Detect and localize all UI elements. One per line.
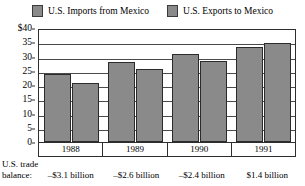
bar-group — [103, 30, 167, 142]
trade-balance-value: –$2.4 billion — [169, 170, 235, 182]
bar-imports — [172, 54, 199, 142]
bar-groups — [39, 30, 295, 142]
trade-balance-caption-line2: balance: — [2, 170, 42, 181]
bar-imports — [236, 47, 263, 142]
legend-swatch-exports — [167, 5, 178, 17]
y-tick-mark — [32, 71, 35, 72]
bar-group — [231, 30, 295, 142]
plot-area — [38, 29, 296, 143]
trade-balance-value: $1.4 billion — [235, 170, 301, 182]
bar-imports — [108, 62, 135, 142]
bar-exports — [264, 43, 291, 142]
y-tick-label: 35 — [23, 39, 33, 49]
trade-balance-footer: U.S. trade balance: –$3.1 billion–$2.6 b… — [0, 159, 305, 186]
y-tick-mark — [32, 86, 35, 87]
y-tick-mark — [32, 43, 35, 44]
chart-legend: U.S. Imports from Mexico U.S. Exports to… — [0, 3, 305, 19]
bar-exports — [72, 83, 99, 142]
x-axis-cell: 1991 — [232, 143, 295, 156]
y-tick-label: 25 — [23, 67, 33, 77]
legend-swatch-imports — [32, 5, 43, 17]
y-tick-label: 30 — [23, 53, 33, 63]
legend-label-imports: U.S. Imports from Mexico — [48, 6, 149, 16]
y-tick-mark — [32, 128, 35, 129]
y-tick-label: 10 — [23, 110, 33, 120]
bar-group — [39, 30, 103, 142]
legend-entry-imports: U.S. Imports from Mexico — [32, 5, 149, 17]
bar-chart-figure: U.S. Imports from Mexico U.S. Exports to… — [0, 0, 305, 186]
trade-balance-caption-line1: U.S. trade — [2, 159, 42, 170]
bar-exports — [136, 69, 163, 142]
trade-balance-values: –$3.1 billion–$2.6 billion–$2.4 billion$… — [38, 170, 300, 182]
bar-exports — [200, 61, 227, 143]
y-tick-label: 15 — [23, 96, 33, 106]
y-tick-mark — [32, 114, 35, 115]
x-axis-cell: 1989 — [103, 143, 167, 156]
legend-label-exports: U.S. Exports to Mexico — [183, 6, 273, 16]
trade-balance-value: –$2.6 billion — [104, 170, 170, 182]
y-tick-mark — [32, 29, 35, 30]
x-axis-cell: 1990 — [168, 143, 232, 156]
trade-balance-caption: U.S. trade balance: — [2, 159, 42, 181]
x-axis-category-labels: 1988198919901991 — [38, 143, 296, 157]
y-tick-label: 20 — [23, 81, 33, 91]
y-tick-mark — [32, 57, 35, 58]
y-tick-mark — [32, 100, 35, 101]
y-tick-label: $40 — [18, 24, 32, 34]
trade-balance-value: –$3.1 billion — [38, 170, 104, 182]
y-tick-mark — [32, 143, 35, 144]
legend-entry-exports: U.S. Exports to Mexico — [167, 5, 273, 17]
bar-imports — [44, 74, 71, 142]
x-axis-cell: 1988 — [39, 143, 103, 156]
y-axis: $4035302520151050 — [0, 29, 35, 143]
bar-group — [167, 30, 231, 142]
